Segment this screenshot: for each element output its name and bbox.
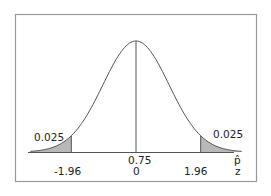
z-axis-label: z bbox=[235, 165, 241, 177]
left-tail-area-label: 0.025 bbox=[34, 131, 64, 143]
right-critical-label: 1.96 bbox=[184, 165, 208, 177]
center-phat-label: 0.75 bbox=[128, 154, 151, 166]
center-z-label: 0 bbox=[133, 165, 140, 177]
left-critical-label: -1.96 bbox=[54, 165, 81, 177]
normal-distribution-chart: 0.025 0.025 0.75 0 -1.96 1.96 p̂ z bbox=[0, 0, 271, 196]
right-tail-area-label: 0.025 bbox=[213, 128, 243, 140]
